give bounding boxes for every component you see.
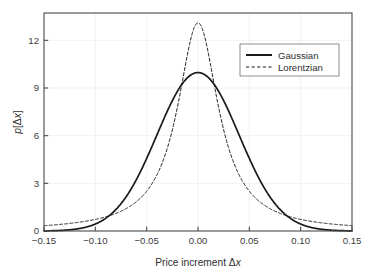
x-tick-label: 0.15	[343, 235, 362, 246]
x-tick-label: 0.00	[189, 235, 208, 246]
x-axis-title: Price increment Δx	[155, 257, 241, 268]
y-tick-labels: 036912	[28, 35, 39, 237]
x-tick-label: 0.10	[291, 235, 310, 246]
legend-label-lorentzian: Lorentzian	[278, 62, 323, 73]
x-tick-labels: −0.15−0.10−0.050.000.050.100.15	[32, 235, 361, 246]
y-tick-label: 3	[34, 178, 39, 189]
y-tick-label: 0	[34, 225, 39, 236]
y-tick-label: 6	[34, 130, 39, 141]
y-tick-label: 9	[34, 82, 39, 93]
legend-label-gaussian: Gaussian	[278, 50, 319, 61]
y-axis-title: p[Δx]	[12, 110, 23, 134]
figure-container: −0.15−0.10−0.050.000.050.100.15 036912 P…	[0, 0, 374, 277]
legend[interactable]: Gaussian Lorentzian	[240, 44, 339, 76]
x-tick-label: −0.10	[83, 235, 107, 246]
y-tick-label: 12	[28, 35, 39, 46]
x-tick-label: −0.05	[135, 235, 159, 246]
chart-plot: −0.15−0.10−0.050.000.050.100.15 036912 P…	[0, 0, 374, 277]
x-tick-label: 0.05	[240, 235, 259, 246]
